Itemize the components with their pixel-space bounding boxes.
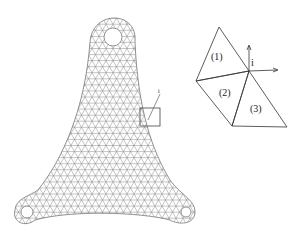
figure: i i (1) (2) (3) xyxy=(0,0,302,244)
node-label: i xyxy=(251,58,254,68)
top-hole xyxy=(104,28,122,46)
element-label-1: (1) xyxy=(211,52,223,62)
element-label-2: (2) xyxy=(219,88,231,98)
element-detail xyxy=(196,27,287,127)
left-hole xyxy=(21,206,33,218)
inset-leader xyxy=(148,94,160,120)
right-hole xyxy=(181,207,191,217)
inset-label: i xyxy=(158,88,160,94)
mesh-diagram xyxy=(0,0,302,244)
element-label-3: (3) xyxy=(250,104,262,114)
